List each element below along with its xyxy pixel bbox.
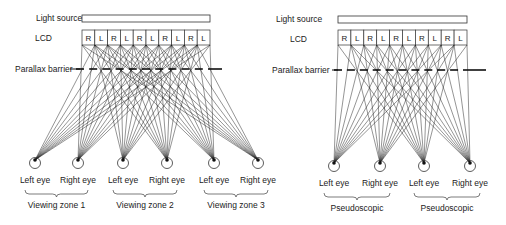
lcd-cell-label: R xyxy=(86,34,92,43)
light-ray xyxy=(78,45,184,160)
zone-label: Viewing zone 3 xyxy=(207,200,265,210)
lcd-cell-label: L xyxy=(99,34,104,43)
eyes: Left eyeRight eyeLeft eyeRight eye xyxy=(319,161,488,189)
lcd-cell-label: L xyxy=(355,34,360,43)
lcd-cell-label: R xyxy=(137,34,143,43)
lcd-label: LCD xyxy=(290,34,307,44)
light-source xyxy=(82,15,210,22)
light-source xyxy=(338,16,467,23)
parallax-barrier-label: Parallax barrier xyxy=(272,65,330,75)
focal-point xyxy=(165,158,169,162)
light-ray xyxy=(172,45,258,160)
light-ray xyxy=(35,45,197,160)
viewing-zones: PseudoscopicPseudoscopic xyxy=(324,193,480,213)
light-ray xyxy=(78,45,82,160)
light-ray xyxy=(167,45,172,160)
lcd-cell-label: L xyxy=(176,34,181,43)
light-ray xyxy=(364,45,380,163)
lcd-cell-label: L xyxy=(381,34,386,43)
zone-brace xyxy=(204,190,268,197)
light-ray xyxy=(78,45,197,160)
right-panel: Light source LCD RLRLRLRLRL Parallax bar… xyxy=(272,14,488,213)
eye-label: Right eye xyxy=(149,175,185,185)
eye-label: Left eye xyxy=(20,175,51,185)
lcd-cell-label: R xyxy=(419,34,425,43)
lcd-cell-label: R xyxy=(162,34,168,43)
lcd-panel: RLRLRLRLRL xyxy=(82,30,210,45)
light-ray xyxy=(35,45,146,160)
eye-label: Left eye xyxy=(108,175,139,185)
light-ray xyxy=(441,45,470,163)
light-ray xyxy=(334,45,364,163)
light-rays xyxy=(334,45,470,163)
parallax-barrier-diagram: Light source LCD RLRLRLRLRL Parallax bar… xyxy=(0,0,506,225)
lcd-cell-label: R xyxy=(393,34,399,43)
lcd-cell-label: L xyxy=(201,34,206,43)
light-ray xyxy=(334,45,415,163)
lcd-panel: RLRLRLRLRL xyxy=(338,30,467,45)
light-ray xyxy=(380,45,441,163)
eye-label: Left eye xyxy=(409,178,440,188)
light-source-label: Light source xyxy=(276,14,323,24)
focal-point xyxy=(256,158,260,162)
focal-point xyxy=(332,161,336,165)
light-ray xyxy=(380,45,415,163)
left-panel: Light source LCD RLRLRLRLRL Parallax bar… xyxy=(15,13,276,210)
light-ray xyxy=(123,45,184,160)
lcd-label: LCD xyxy=(35,33,52,43)
light-source-label: Light source xyxy=(36,13,83,23)
zone-brace xyxy=(113,190,177,197)
eyes: Left eyeRight eyeLeft eyeRight eyeLeft e… xyxy=(20,158,276,186)
lcd-cell-label: L xyxy=(150,34,155,43)
light-ray xyxy=(428,45,470,163)
light-ray xyxy=(334,45,441,163)
light-ray xyxy=(108,45,214,160)
eye-label: Right eye xyxy=(452,178,488,188)
light-ray xyxy=(424,45,428,163)
lcd-cell-label: R xyxy=(342,34,348,43)
lcd-cell-label: L xyxy=(407,34,412,43)
eye-label: Right eye xyxy=(240,175,276,185)
parallax-barrier-label: Parallax barrier xyxy=(15,64,73,74)
light-ray xyxy=(35,45,120,160)
light-ray xyxy=(424,45,454,163)
light-ray xyxy=(210,45,214,160)
focal-point xyxy=(468,161,472,165)
light-ray xyxy=(424,45,441,163)
light-ray xyxy=(390,45,424,163)
zone-brace xyxy=(25,190,88,197)
focal-point xyxy=(76,158,80,162)
light-ray xyxy=(146,45,167,160)
light-ray xyxy=(197,45,258,160)
lcd-cell-label: R xyxy=(445,34,451,43)
zone-label: Pseudoscopic xyxy=(331,203,385,213)
eye-label: Right eye xyxy=(60,175,96,185)
zone-label: Viewing zone 1 xyxy=(28,200,86,210)
focal-point xyxy=(422,161,426,165)
eye-label: Left eye xyxy=(199,175,230,185)
light-rays xyxy=(35,45,258,160)
light-ray xyxy=(334,45,338,163)
lcd-cell-label: L xyxy=(125,34,130,43)
focal-point xyxy=(378,161,382,165)
light-ray xyxy=(95,45,258,160)
zone-label: Pseudoscopic xyxy=(421,203,475,213)
light-ray xyxy=(35,45,95,160)
zone-brace xyxy=(414,193,480,200)
light-ray xyxy=(334,45,403,163)
lcd-cell-label: L xyxy=(458,34,463,43)
eye-label: Right eye xyxy=(362,178,398,188)
lcd-cell-label: L xyxy=(433,34,438,43)
lcd-cell-label: R xyxy=(111,34,117,43)
lcd-cell-label: R xyxy=(188,34,194,43)
viewing-zones: Viewing zone 1Viewing zone 2Viewing zone… xyxy=(25,190,268,210)
light-ray xyxy=(82,45,258,160)
focal-point xyxy=(212,158,216,162)
lcd-cell-label: R xyxy=(367,34,373,43)
light-ray xyxy=(390,45,470,163)
light-ray xyxy=(184,45,214,160)
focal-point xyxy=(121,158,125,162)
focal-point xyxy=(33,158,37,162)
zone-brace xyxy=(324,193,390,200)
zone-label: Viewing zone 2 xyxy=(116,200,174,210)
